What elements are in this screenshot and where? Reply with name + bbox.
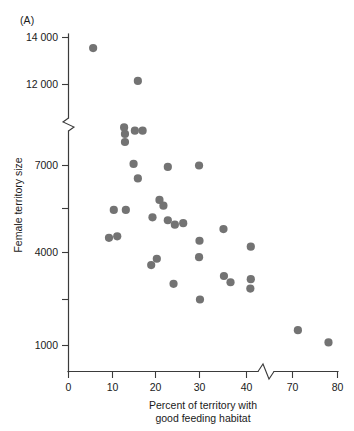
y-tick-label-4000: 4000 — [35, 246, 59, 258]
data-point — [164, 216, 172, 224]
x-tick-label-10: 10 — [107, 381, 119, 393]
data-point — [171, 221, 179, 229]
x-tick-label-30: 30 — [194, 381, 206, 393]
scatter-plot: 14 000 12 000 7000 4000 1000 Female terr… — [0, 0, 354, 431]
y-tick-label-1000: 1000 — [35, 339, 59, 351]
data-point — [169, 280, 177, 288]
data-point — [139, 127, 147, 135]
data-point — [147, 261, 155, 269]
figure-container: (A) 14 000 12 000 7000 4000 1000 F — [0, 0, 354, 431]
data-point — [324, 338, 332, 346]
data-point — [195, 161, 203, 169]
data-point — [122, 206, 130, 214]
data-point — [134, 174, 142, 182]
data-point — [219, 225, 227, 233]
x-tick-label-0: 0 — [66, 381, 72, 393]
data-point — [131, 127, 139, 135]
x-tick-label-20: 20 — [150, 381, 162, 393]
data-point — [294, 326, 302, 334]
x-tick-label-40: 40 — [241, 381, 253, 393]
data-point — [247, 275, 255, 283]
data-point — [105, 234, 113, 242]
x-axis-title-line-1: Percent of territory with — [149, 399, 257, 411]
data-point — [153, 255, 161, 263]
data-points-layer — [89, 44, 333, 347]
data-point — [121, 138, 129, 146]
data-point — [89, 44, 97, 52]
data-point — [246, 284, 254, 292]
data-point — [148, 213, 156, 221]
y-axis: 14 000 12 000 7000 4000 1000 Female terr… — [12, 31, 74, 372]
data-point — [220, 272, 228, 280]
data-point — [196, 295, 204, 303]
y-tick-label-7000: 7000 — [35, 159, 59, 171]
data-point — [134, 77, 142, 85]
data-point — [195, 237, 203, 245]
data-point — [129, 160, 137, 168]
data-point — [110, 206, 118, 214]
data-point — [247, 243, 255, 251]
y-tick-label-12000: 12 000 — [26, 78, 58, 90]
x-tick-label-70: 70 — [287, 381, 299, 393]
y-axis-title: Female territory size — [12, 157, 24, 252]
data-point — [195, 253, 203, 261]
data-point — [159, 202, 167, 210]
x-axis: 0 10 20 30 40 70 80 Percent of territory… — [66, 364, 344, 424]
data-point — [226, 278, 234, 286]
y-tick-label-14000: 14 000 — [26, 31, 58, 43]
data-point — [121, 130, 129, 138]
data-point — [179, 219, 187, 227]
x-axis-title-line-2: good feeding habitat — [155, 412, 250, 424]
data-point — [113, 232, 121, 240]
x-axis-break-icon — [258, 364, 274, 379]
y-axis-break-icon — [63, 118, 74, 131]
x-tick-label-80: 80 — [332, 381, 344, 393]
data-point — [164, 163, 172, 171]
